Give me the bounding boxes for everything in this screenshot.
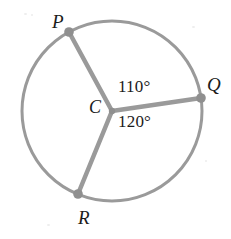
radius-segment-cr	[78, 111, 112, 194]
center-point-c	[109, 108, 115, 114]
radius-segment-cq	[112, 98, 201, 111]
center-label-c: C	[89, 98, 101, 116]
vertex-point-p	[64, 27, 74, 37]
vertex-point-q	[196, 93, 206, 103]
vertex-label-q: Q	[207, 75, 221, 94]
angle-label-pcq: 110°	[118, 78, 150, 95]
vertex-label-p: P	[52, 12, 64, 31]
geometry-figure: P Q R C 110° 120°	[0, 0, 231, 239]
vertex-label-r: R	[78, 208, 90, 227]
angle-label-qcr: 120°	[118, 113, 151, 130]
vertex-point-r	[73, 189, 83, 199]
circle-diagram-canvas	[0, 0, 231, 239]
